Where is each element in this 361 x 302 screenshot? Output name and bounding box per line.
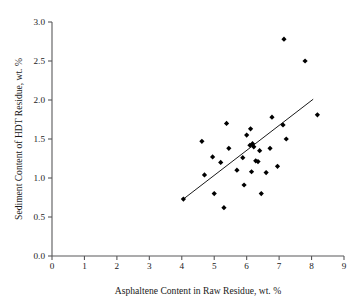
data-point	[248, 126, 253, 131]
data-point	[212, 191, 217, 196]
x-tick-label: 3	[147, 261, 152, 271]
x-tick-label: 4	[179, 261, 184, 271]
data-point	[240, 155, 245, 160]
data-point	[281, 37, 286, 42]
y-tick-label: 2.5	[34, 56, 46, 66]
y-axis-ticks: 0.00.51.01.52.02.53.0	[34, 17, 52, 261]
data-point	[259, 191, 264, 196]
x-tick-label: 5	[212, 261, 217, 271]
data-point	[224, 121, 229, 126]
axis-frame	[52, 22, 344, 256]
y-axis-title: Sediment Content of HDT Residue, wt. %	[13, 58, 24, 220]
data-point	[315, 112, 320, 117]
scatter-plot-figure: 0.00.51.01.52.02.53.0 0123456789 Asphalt…	[0, 0, 361, 302]
trend-line	[183, 99, 313, 199]
chart-canvas: 0.00.51.01.52.02.53.0 0123456789 Asphalt…	[0, 0, 361, 302]
data-point	[244, 133, 249, 138]
data-point	[202, 172, 207, 177]
data-point	[302, 58, 307, 63]
x-axis-title: Asphaltene Content in Raw Residue, wt. %	[115, 285, 281, 296]
data-point	[199, 139, 204, 144]
data-point	[241, 182, 246, 187]
y-tick-label: 3.0	[34, 17, 46, 27]
data-point	[267, 146, 272, 151]
x-tick-label: 8	[309, 261, 314, 271]
y-tick-label: 0.0	[34, 251, 46, 261]
x-tick-label: 0	[50, 261, 55, 271]
y-tick-label: 0.5	[34, 212, 46, 222]
data-point	[218, 160, 223, 165]
data-point	[210, 154, 215, 159]
x-tick-label: 1	[82, 261, 87, 271]
x-tick-label: 9	[342, 261, 347, 271]
data-point	[280, 122, 285, 127]
x-tick-label: 6	[244, 261, 249, 271]
data-point	[269, 115, 274, 120]
data-point	[226, 146, 231, 151]
x-tick-label: 2	[115, 261, 120, 271]
y-tick-label: 1.0	[34, 173, 46, 183]
y-tick-label: 1.5	[34, 134, 46, 144]
data-point	[221, 205, 226, 210]
x-axis-ticks: 0123456789	[50, 256, 347, 271]
trend-line-group	[183, 99, 313, 199]
y-tick-label: 2.0	[34, 95, 46, 105]
data-point	[275, 164, 280, 169]
data-points-group	[181, 37, 320, 211]
x-tick-label: 7	[277, 261, 282, 271]
data-point	[284, 136, 289, 141]
data-point	[249, 169, 254, 174]
data-point	[264, 170, 269, 175]
data-point	[234, 168, 239, 173]
data-point	[257, 148, 262, 153]
